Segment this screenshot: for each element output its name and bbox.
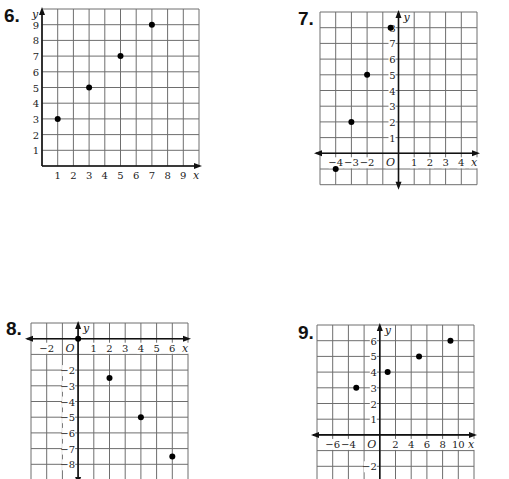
x-tick-label: 6: [424, 439, 430, 450]
data-point: [385, 369, 391, 375]
axes: [311, 323, 477, 479]
y-tick-label: 5: [370, 351, 376, 362]
y-tick-label: −2: [362, 461, 377, 472]
x-tick-label: 8: [439, 439, 445, 450]
data-points: [353, 338, 453, 391]
data-point: [353, 385, 359, 391]
x-axis-arrow-left-icon: [311, 432, 319, 438]
data-point: [447, 338, 453, 344]
y-tick-label: 2: [370, 399, 376, 410]
grid-lines: [317, 325, 474, 479]
origin-label: O: [367, 438, 376, 451]
y-tick-label: 1: [370, 414, 376, 425]
y-axis-label: y: [384, 324, 392, 337]
y-axis-arrow-up-icon: [377, 323, 383, 331]
y-tick-label: 3: [370, 383, 376, 394]
x-tick-label: −4: [341, 439, 356, 450]
tick-labels: −6−4246810123456−2xyO: [325, 324, 475, 472]
x-tick-label: 10: [452, 439, 465, 450]
y-tick-label: 6: [370, 336, 376, 347]
x-tick-label: −6: [325, 439, 340, 450]
y-tick-label: 4: [370, 367, 376, 378]
x-axis-label: x: [468, 438, 475, 451]
graph-9: −6−4246810123456−2xyO: [0, 0, 509, 479]
x-tick-label: 2: [392, 439, 398, 450]
data-point: [416, 353, 422, 359]
x-tick-label: 4: [408, 439, 414, 450]
